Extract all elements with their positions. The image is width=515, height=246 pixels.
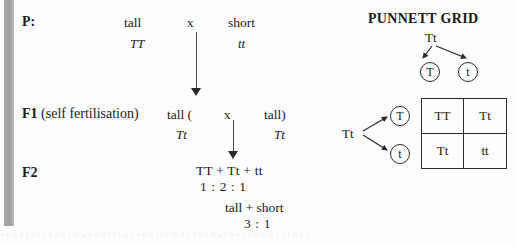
punnett-cell-r2c1: Tt: [422, 134, 464, 169]
generation-label-f1: F1 (self fertilisation): [22, 106, 139, 122]
p-parent-left-genotype: TT: [130, 36, 144, 52]
p-parent-right-genotype: tt: [238, 36, 245, 52]
punnett-cell-r1c1: TT: [422, 99, 464, 134]
punnett-left-parent-genotype: Tt: [342, 126, 354, 142]
arrow-f1-to-f2-head: [228, 151, 238, 159]
generation-label-p-text: P:: [22, 14, 35, 29]
punnett-cell-r1c2: Tt: [464, 99, 506, 134]
arrow-f1-to-f2-shaft: [233, 120, 234, 153]
p-parent-right-phenotype: short: [228, 15, 255, 31]
p-parent-left-phenotype: tall: [124, 15, 141, 31]
scan-gutter-shadow: [4, 0, 14, 226]
generation-label-f2: F2: [22, 165, 38, 181]
generation-label-p: P:: [22, 14, 35, 30]
punnett-top-gamete-1: T: [420, 62, 440, 82]
f1-right-phenotype: tall): [264, 107, 286, 123]
arrow-p-to-f1-shaft: [196, 32, 197, 90]
punnett-grid-table: TT Tt Tt tt: [421, 98, 507, 169]
f1-left-genotype: Tt: [176, 127, 187, 143]
punnett-left-gamete-2: t: [390, 144, 410, 164]
punnett-top-gamete-2: t: [458, 62, 478, 82]
scanned-page: P: tall x short TT tt F1 (self fertilisa…: [0, 0, 515, 246]
f1-cross-symbol: x: [224, 107, 231, 123]
f2-genotypes: TT + Tt + tt: [196, 163, 263, 179]
arrow-p-to-f1-head: [191, 88, 201, 96]
p-cross-symbol: x: [187, 15, 194, 31]
f1-left-phenotype: tall (: [167, 107, 192, 123]
f2-genotype-ratio: 1 : 2 : 1: [200, 179, 247, 195]
scan-bleed-through-text: a e u n l e r t h s o i m a n e d t r l …: [0, 230, 515, 246]
punnett-top-parent-genotype: Tt: [425, 30, 437, 46]
generation-label-f1-note: (self fertilisation): [38, 106, 139, 121]
punnett-cell-r2c2: tt: [464, 134, 506, 169]
generation-label-f1-bold: F1: [22, 106, 38, 121]
f2-phenotypes: tall + short: [225, 200, 284, 216]
generation-label-f2-text: F2: [22, 165, 38, 180]
punnett-grid-title: PUNNETT GRID: [368, 11, 478, 27]
f1-right-genotype: Tt: [274, 127, 285, 143]
punnett-left-gamete-1: T: [390, 106, 410, 126]
